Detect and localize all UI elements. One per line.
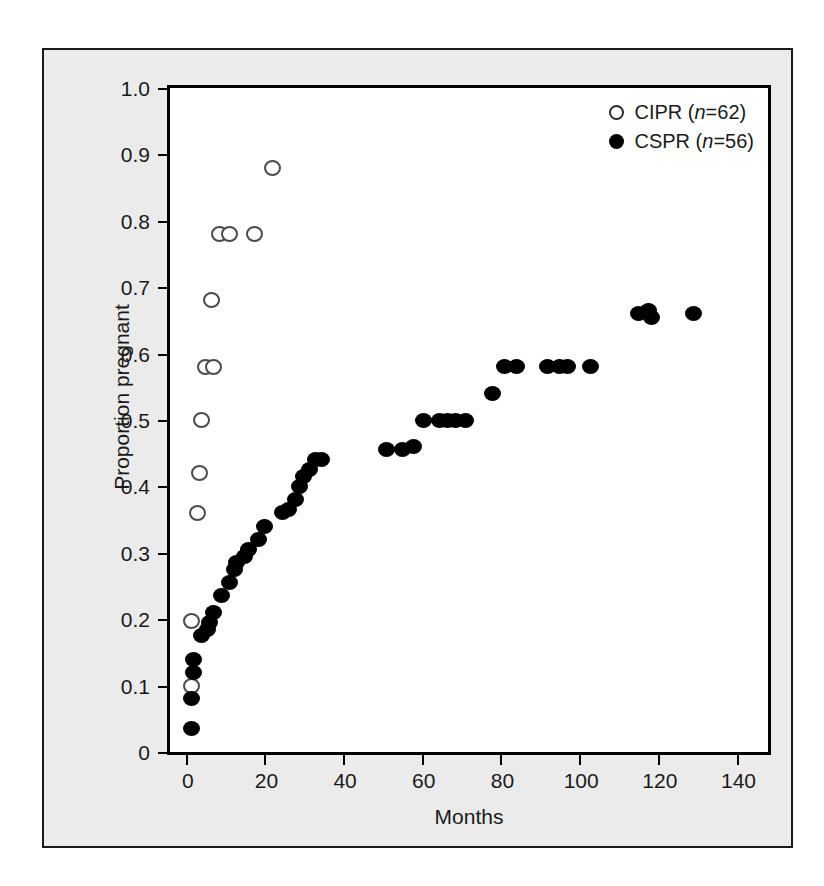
data-point-cipr [221, 226, 238, 242]
open-circle-icon [609, 105, 624, 120]
plot-area: 00.10.20.30.40.50.60.70.80.91.0020406080… [167, 85, 771, 755]
y-axis-tick: 0.1 [158, 686, 170, 688]
data-point-cspr [185, 665, 202, 680]
data-point-cspr [183, 721, 200, 736]
data-point-cspr [250, 532, 267, 547]
y-axis-tick: 0.8 [158, 221, 170, 223]
data-point-cspr [313, 452, 330, 467]
x-axis-tick: 40 [343, 752, 345, 765]
plot-inner: 00.10.20.30.40.50.60.70.80.91.0020406080… [170, 88, 768, 752]
data-point-cspr [256, 519, 273, 534]
y-axis-tick: 0.6 [158, 354, 170, 356]
x-axis-tick-label: 80 [462, 769, 542, 793]
x-axis-tick: 20 [264, 752, 266, 765]
x-axis-tick: 140 [737, 752, 739, 765]
y-axis-tick-label: 0.3 [121, 543, 150, 565]
x-axis-tick-label: 0 [148, 769, 228, 793]
y-axis-tick: 0.4 [158, 486, 170, 488]
y-axis-title: Proportion pregnant [110, 257, 134, 537]
legend-label: CSPR (n=56) [634, 127, 754, 156]
x-axis-tick-label: 20 [226, 769, 306, 793]
y-axis-tick: 0.2 [158, 619, 170, 621]
y-axis-tick-label: 0 [138, 742, 150, 764]
y-axis-tick: 1.0 [158, 88, 170, 90]
data-point-cspr [484, 386, 501, 401]
y-axis-tick-label: 0.1 [121, 676, 150, 698]
x-axis-tick: 100 [579, 752, 581, 765]
data-point-cipr [189, 505, 206, 521]
x-axis-tick-label: 60 [384, 769, 464, 793]
legend-label: CIPR (n=62) [634, 98, 746, 127]
data-point-cspr [457, 413, 474, 428]
y-axis-tick: 0 [158, 752, 170, 754]
data-point-cipr [205, 359, 222, 375]
data-point-cspr [221, 575, 238, 590]
data-point-cspr [183, 691, 200, 706]
data-point-cipr [183, 613, 200, 629]
data-point-cspr [405, 439, 422, 454]
y-axis-tick-label: 0.2 [121, 609, 150, 631]
data-point-cipr [246, 226, 263, 242]
data-point-cspr [643, 310, 660, 325]
y-axis-tick: 0.7 [158, 287, 170, 289]
x-axis-tick-label: 140 [699, 769, 779, 793]
figure-frame: 00.10.20.30.40.50.60.70.80.91.0020406080… [42, 48, 793, 848]
x-axis-tick-label: 100 [541, 769, 621, 793]
legend-item-cspr: CSPR (n=56) [609, 127, 754, 156]
data-point-cspr [287, 492, 304, 507]
x-axis-tick: 0 [186, 752, 188, 765]
x-axis-tick-label: 120 [620, 769, 700, 793]
data-point-cspr [582, 359, 599, 374]
x-axis-tick: 80 [500, 752, 502, 765]
figure-canvas: 00.10.20.30.40.50.60.70.80.91.0020406080… [0, 0, 824, 886]
x-axis-tick: 120 [658, 752, 660, 765]
data-point-cspr [415, 413, 432, 428]
y-axis-tick: 0.3 [158, 553, 170, 555]
x-axis-title: Months [167, 805, 771, 829]
x-axis-tick: 60 [422, 752, 424, 765]
data-point-cipr [264, 160, 281, 176]
y-axis-tick-label: 0.9 [121, 144, 150, 166]
y-axis-tick: 0.5 [158, 420, 170, 422]
legend-item-cipr: CIPR (n=62) [609, 98, 754, 127]
data-point-cipr [203, 292, 220, 308]
data-point-cspr [185, 652, 202, 667]
y-axis-tick-label: 1.0 [121, 78, 150, 100]
chart-legend: CIPR (n=62)CSPR (n=56) [609, 98, 754, 156]
data-point-cspr [508, 359, 525, 374]
filled-circle-icon [609, 134, 624, 149]
data-point-cipr [191, 465, 208, 481]
x-axis-tick-label: 40 [305, 769, 385, 793]
data-point-cspr [685, 306, 702, 321]
data-point-cspr [559, 359, 576, 374]
data-point-cipr [193, 412, 210, 428]
data-point-cspr [213, 588, 230, 603]
data-point-cspr [378, 442, 395, 457]
data-point-cspr [205, 605, 222, 620]
y-axis-tick: 0.9 [158, 154, 170, 156]
y-axis-tick-label: 0.8 [121, 211, 150, 233]
